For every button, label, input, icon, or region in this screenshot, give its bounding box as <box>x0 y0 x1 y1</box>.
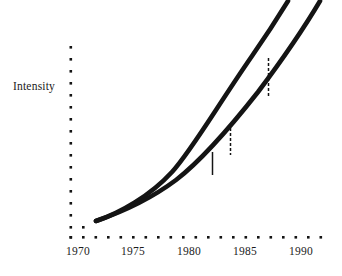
origin-dot-cluster <box>82 226 85 229</box>
x-tick-label-1985: 1985 <box>233 245 257 257</box>
series-upper-curve <box>96 1 288 221</box>
series-lower-curve <box>96 1 320 221</box>
x-tick-label-1970: 1970 <box>66 245 90 257</box>
x-axis-dotted-line <box>70 236 323 239</box>
y-axis-dotted-line <box>70 46 73 239</box>
x-tick-label-1975: 1975 <box>121 245 145 257</box>
x-tick-label-1980: 1980 <box>177 245 201 257</box>
chart-plot-area <box>0 0 342 276</box>
chart-figure: Intensity 1970 1975 1980 1985 1990 <box>0 0 342 276</box>
y-axis-title: Intensity <box>13 80 55 92</box>
x-tick-label-1990: 1990 <box>289 245 313 257</box>
